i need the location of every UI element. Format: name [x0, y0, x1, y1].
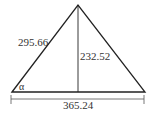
base-length-label: 365.24	[63, 99, 94, 111]
triangle-diagram: 295.66 232.52 365.24 α	[0, 0, 154, 114]
height-label: 232.52	[80, 50, 110, 62]
angle-alpha-label: α	[19, 81, 25, 92]
triangle-outline	[12, 5, 145, 92]
side-length-label: 295.66	[18, 36, 49, 48]
